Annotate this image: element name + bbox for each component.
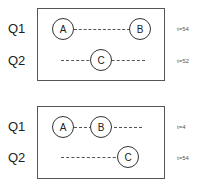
job-node-a: A — [52, 18, 74, 40]
job-node-b: B — [129, 18, 151, 40]
job-node-c: C — [117, 146, 139, 168]
queue-label-q1: Q1 — [8, 21, 25, 36]
time-label: t=52 — [177, 58, 189, 64]
queue-label-q1: Q1 — [8, 119, 25, 134]
job-node-a: A — [52, 116, 74, 138]
timeline-dash — [61, 157, 121, 158]
queue-label-q2: Q2 — [8, 150, 25, 165]
time-label: t=54 — [177, 155, 189, 161]
queue-label-q2: Q2 — [8, 53, 25, 68]
time-label: t=4 — [177, 124, 186, 130]
time-label: t=54 — [177, 26, 189, 32]
job-node-b: B — [90, 116, 112, 138]
job-node-c: C — [90, 49, 112, 71]
timeline-dash — [74, 29, 130, 30]
